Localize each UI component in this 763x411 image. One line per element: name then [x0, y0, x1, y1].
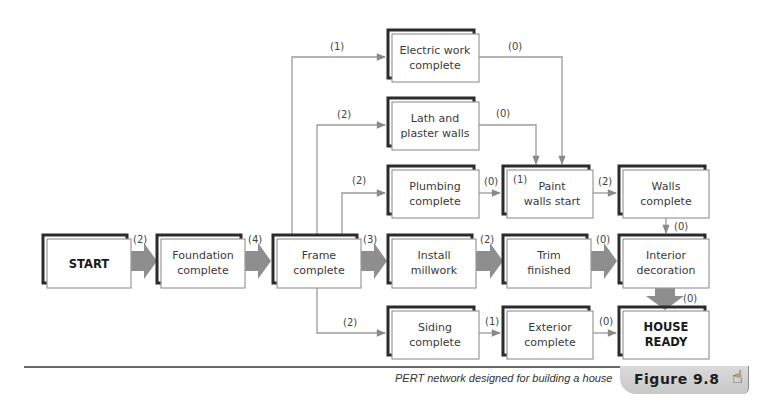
- node-label: complete: [177, 264, 229, 277]
- node-trim: Trim finished: [503, 235, 591, 288]
- pert-network-diagram: (2) (4) (1) (2) (2) (3) (2) (0) (0) (0) …: [0, 0, 763, 411]
- fat-arrow-trim-interior: [591, 243, 617, 279]
- node-label: finished: [527, 264, 570, 277]
- node-label: Lath and: [411, 112, 459, 125]
- fat-arrow-millwork-trim: [476, 243, 503, 279]
- node-label: Interior: [646, 249, 687, 262]
- fat-arrow-start-foundation: [131, 243, 157, 279]
- figure-tab: Figure 9.8 ☝: [620, 366, 749, 394]
- node-electric: Electric work complete: [388, 30, 479, 82]
- node-label: complete: [524, 336, 576, 349]
- edge-label: (2): [480, 234, 494, 245]
- node-label: plaster walls: [400, 127, 469, 140]
- edge-label: (0): [596, 234, 610, 245]
- node-label: Trim: [536, 249, 560, 262]
- node-siding: Siding complete: [388, 307, 479, 359]
- node-label: Frame: [302, 249, 337, 262]
- node-label: Electric work: [400, 44, 472, 57]
- edge-lath-paint: [479, 125, 536, 164]
- edge-label: (0): [496, 108, 510, 119]
- node-frame: Frame complete: [273, 235, 361, 288]
- edge-label: (2): [337, 109, 351, 120]
- node-label: complete: [640, 195, 692, 208]
- caption-rule: [24, 366, 710, 368]
- node-label: complete: [409, 336, 461, 349]
- node-label: walls start: [524, 195, 581, 208]
- edge-label: (2): [133, 234, 147, 245]
- edge-frame-lath: [317, 125, 385, 234]
- node-label: Paint: [538, 180, 566, 193]
- edge-label: (0): [484, 176, 498, 187]
- edge-label: (0): [508, 41, 522, 52]
- pointing-hand-icon: ☝: [732, 368, 743, 386]
- node-foundation: Foundation complete: [157, 235, 245, 288]
- node-label: millwork: [411, 264, 458, 277]
- node-label: Foundation: [172, 249, 233, 262]
- edge-label: (2): [352, 175, 366, 186]
- edge-label: (1): [330, 41, 344, 52]
- edge-label: (1): [485, 316, 499, 327]
- node-millwork: Install millwork: [388, 235, 476, 288]
- node-label: Plumbing: [409, 180, 460, 193]
- edge-label: (0): [599, 316, 613, 327]
- edge-label: (0): [674, 221, 688, 232]
- node-paint: (1) Paint walls start: [503, 166, 593, 218]
- edge-frame-plumbing: [342, 193, 385, 234]
- node-inner-label: (1): [513, 174, 527, 185]
- figure-caption: PERT network designed for building a hou…: [395, 372, 613, 384]
- node-interior: Interior decoration: [619, 235, 709, 288]
- edge-label: (3): [363, 234, 377, 245]
- edge-label: (2): [598, 176, 612, 187]
- fat-arrow-frame-millwork: [361, 243, 387, 279]
- node-label: START: [69, 257, 109, 271]
- node-label: Siding: [418, 321, 452, 334]
- node-house-ready: HOUSE READY: [619, 307, 709, 359]
- edge-label: (4): [248, 234, 262, 245]
- node-walls: Walls complete: [619, 166, 709, 218]
- node-label: decoration: [637, 264, 696, 277]
- edge-electric-paint: [479, 57, 562, 164]
- node-label: Exterior: [528, 321, 572, 334]
- fat-arrow-foundation-frame: [245, 243, 271, 279]
- edge-label: (2): [343, 317, 357, 328]
- node-label: Install: [417, 249, 450, 262]
- node-exterior: Exterior complete: [503, 307, 593, 359]
- node-label: complete: [409, 59, 461, 72]
- figure-label: Figure 9.8: [634, 371, 719, 387]
- node-plumbing: Plumbing complete: [388, 166, 479, 218]
- node-label: Walls: [652, 180, 681, 193]
- node-label: complete: [409, 195, 461, 208]
- node-start: START: [43, 235, 131, 288]
- node-label: HOUSE: [644, 320, 689, 334]
- edge-frame-electric: [292, 57, 385, 234]
- node-lath: Lath and plaster walls: [388, 98, 479, 150]
- edge-label: (0): [683, 293, 697, 304]
- node-label: complete: [293, 264, 345, 277]
- node-label: READY: [645, 335, 688, 349]
